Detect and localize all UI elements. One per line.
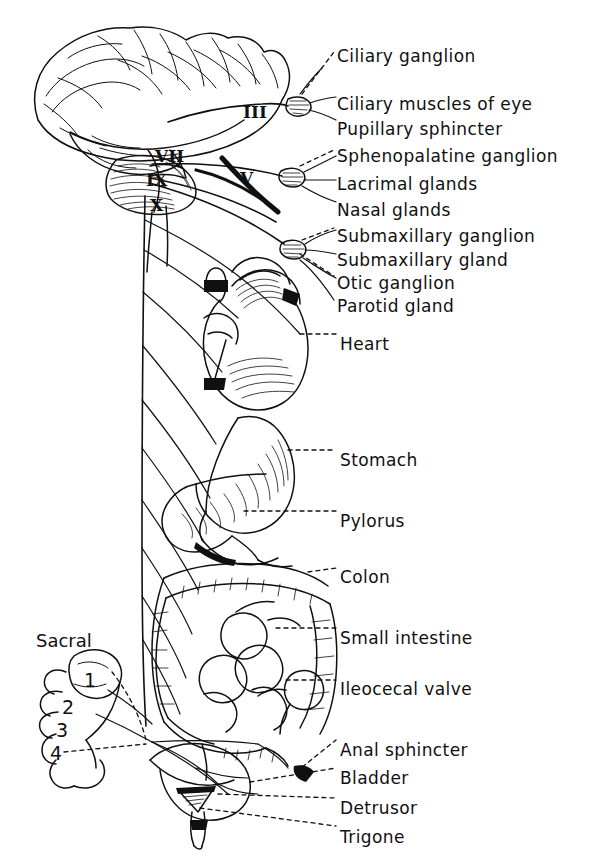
figure-canvas: .ln{fill:none;stroke:#101010;stroke-widt… [0,0,602,861]
sacral-segment-number: 3 [56,721,68,740]
organ-label: Submaxillary gland [337,252,508,269]
organ-label: Bladder [340,770,409,787]
sacral-segment-number: 2 [62,698,74,717]
cranial-nerve-numeral: IX [146,172,167,189]
sacral-segment-number: 1 [84,671,96,690]
organ-label: Stomach [340,452,418,469]
vagus-nerve-trunk [142,196,300,726]
organ-label: Ciliary muscles of eye [337,96,532,113]
organ-label: Ciliary ganglion [337,48,476,65]
cranial-nerve-numeral: V [240,170,253,187]
anatomy-illustration: .ln{fill:none;stroke:#101010;stroke-widt… [0,0,602,861]
sacral-segment-number: 4 [50,744,62,763]
organ-label: Lacrimal glands [337,176,477,193]
organ-label: Nasal glands [337,202,451,219]
leader-lines [200,52,336,826]
organ-label: Ileocecal valve [340,681,472,698]
cranial-nerve-numeral: III [243,104,267,121]
organ-label: Anal sphincter [340,742,468,759]
organ-label: Parotid gland [337,298,454,315]
organ-label: Small intestine [340,630,473,647]
intestines-illustration [152,564,337,782]
ganglion-nodes [279,68,336,300]
bladder-illustration [150,744,250,849]
cranial-nerve-numeral: VII [155,148,184,165]
organ-label: Pupillary sphincter [337,121,503,138]
cranial-nerve-numeral: X [150,197,163,214]
organ-label: Detrusor [340,800,417,817]
organ-label: Colon [340,569,390,586]
cranial-nerve-fibres [150,104,288,244]
heart-illustration [203,258,308,410]
organ-label: Pylorus [340,513,405,530]
organ-label: Trigone [340,829,405,846]
organ-label: Submaxillary ganglion [337,228,535,245]
stomach-illustration [162,417,294,567]
sacral-region-title: Sacral [36,632,92,650]
organ-label: Heart [340,336,389,353]
organ-label: Sphenopalatine ganglion [337,148,558,165]
organ-label: Otic ganglion [337,275,455,292]
